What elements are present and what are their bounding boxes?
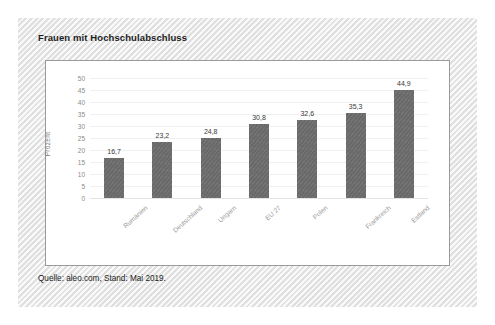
y-axis-tick-label: 20 [78, 147, 85, 154]
y-axis-tick-label: 0 [81, 195, 85, 202]
y-axis-label: Prozent [44, 109, 51, 179]
x-axis-category-label: EU 27 [264, 204, 282, 221]
chart-bar [201, 138, 221, 198]
chart-bar-group: 16,7Rumänien [90, 78, 138, 198]
x-axis-category-label: Estland [409, 204, 430, 224]
chart-bar [249, 124, 269, 198]
chart-bar-value-label: 23,2 [156, 132, 170, 139]
chart-bar [297, 120, 317, 198]
chart-bars: 16,7Rumänien23,2Deutschland24,8Ungarn30,… [90, 78, 428, 198]
x-axis-category-label: Polen [312, 204, 329, 220]
chart-bar-group: 35,3Frankreich [331, 78, 379, 198]
chart-bar-group: 30,8EU 27 [235, 78, 283, 198]
y-axis-tick-label: 35 [78, 111, 85, 118]
chart-bar-value-label: 35,3 [349, 103, 363, 110]
gridline [90, 198, 428, 199]
chart-bar [394, 90, 414, 198]
chart-bar-value-label: 30,8 [252, 114, 266, 121]
x-axis-category-label: Deutschland [172, 204, 204, 234]
chart-bar [152, 142, 172, 198]
y-axis-tick-label: 30 [78, 123, 85, 130]
chart-bar [104, 158, 124, 198]
chart-plot-frame: Prozent 05101520253035404550 16,7Rumänie… [45, 60, 450, 266]
x-axis-category-label: Rumänien [122, 204, 149, 229]
y-axis-tick-label: 40 [78, 99, 85, 106]
chart-bar-group: 44,9Estland [380, 78, 428, 198]
x-axis-category-label: Frankreich [364, 204, 392, 230]
chart-bar-value-label: 24,8 [204, 128, 218, 135]
y-axis-tick-label: 15 [78, 159, 85, 166]
x-axis-category-label: Ungarn [216, 204, 237, 224]
chart-bar-value-label: 16,7 [107, 148, 121, 155]
chart-bar-value-label: 44,9 [397, 80, 411, 87]
chart-bar-value-label: 32,6 [300, 110, 314, 117]
y-axis-tick-label: 5 [81, 183, 85, 190]
chart-bar-group: 24,8Ungarn [187, 78, 235, 198]
chart-bar [346, 113, 366, 198]
screenshot-root: Frauen mit Hochschulabschluss Prozent 05… [0, 0, 495, 325]
y-axis-tick-label: 25 [78, 135, 85, 142]
chart-plot-area: 05101520253035404550 16,7Rumänien23,2Deu… [90, 78, 428, 198]
chart-card: Frauen mit Hochschulabschluss Prozent 05… [18, 18, 477, 307]
y-axis-tick-label: 50 [78, 75, 85, 82]
y-axis-tick-label: 10 [78, 171, 85, 178]
source-caption: Quelle: aleo.com, Stand: Mai 2019. [38, 274, 166, 283]
chart-bar-group: 23,2Deutschland [138, 78, 186, 198]
chart-bar-group: 32,6Polen [283, 78, 331, 198]
page-title: Frauen mit Hochschulabschluss [38, 32, 187, 43]
y-axis-tick-label: 45 [78, 87, 85, 94]
